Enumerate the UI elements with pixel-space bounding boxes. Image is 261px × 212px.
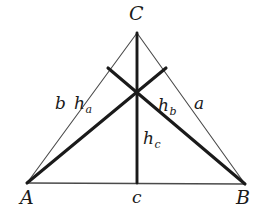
altitude-ha-base: h xyxy=(74,93,85,113)
altitude-hc-base: h xyxy=(143,128,154,148)
altitude-label-hc: hc xyxy=(143,130,160,147)
vertex-label-b: B xyxy=(236,188,250,207)
side-label-a: a xyxy=(194,95,204,112)
altitude-label-ha: ha xyxy=(74,95,92,112)
triangle-side-a xyxy=(137,33,245,184)
side-label-b: b xyxy=(55,95,66,112)
altitude-hb-subscript: b xyxy=(169,105,176,118)
side-label-c: c xyxy=(132,189,142,206)
triangle-diagram-canvas xyxy=(0,0,261,212)
altitude-label-hb: hb xyxy=(158,97,176,114)
altitude-hc-subscript: c xyxy=(154,138,160,151)
vertex-label-a: A xyxy=(20,188,34,207)
vertex-label-c: C xyxy=(129,4,144,23)
altitude-hb-line xyxy=(108,68,245,184)
altitude-ha-subscript: a xyxy=(85,103,92,116)
altitude-hb-base: h xyxy=(158,95,169,115)
altitude-ha-line xyxy=(27,68,166,183)
geometry-figure: A B C b a c ha hb hc xyxy=(0,0,261,212)
